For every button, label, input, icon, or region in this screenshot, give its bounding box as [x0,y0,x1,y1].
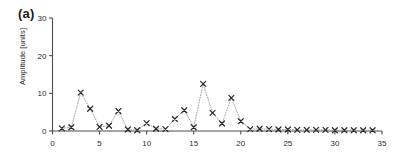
y-tick-label: 30 [38,14,47,23]
data-point-marker [219,121,224,126]
y-tick-label: 20 [38,52,47,61]
data-point-marker [88,106,93,111]
series-connector-line [62,84,373,130]
data-point-marker [144,121,149,126]
y-tick-label: 0 [42,127,47,136]
axis-spines [53,18,383,131]
scatter-plot: 010203005101520253035 [0,0,405,154]
data-point-marker [78,90,83,95]
data-point-marker [59,126,64,131]
x-tick-label: 15 [189,139,198,148]
data-point-marker [229,95,234,100]
data-point-marker [238,119,243,124]
axes: 010203005101520253035 [38,14,387,148]
data-series [59,81,375,132]
data-point-marker [182,108,187,113]
x-tick-label: 35 [378,139,387,148]
data-point-marker [135,128,140,133]
y-tick-label: 10 [38,89,47,98]
x-tick-label: 20 [236,139,245,148]
figure-panel: (a) Amplitude [units] 010203005101520253… [0,0,405,154]
data-point-marker [172,116,177,121]
data-point-marker [210,110,215,115]
x-tick-label: 10 [142,139,151,148]
x-tick-label: 0 [50,139,55,148]
data-point-marker [116,109,121,114]
x-tick-label: 30 [330,139,339,148]
x-tick-label: 25 [283,139,292,148]
x-tick-label: 5 [97,139,102,148]
